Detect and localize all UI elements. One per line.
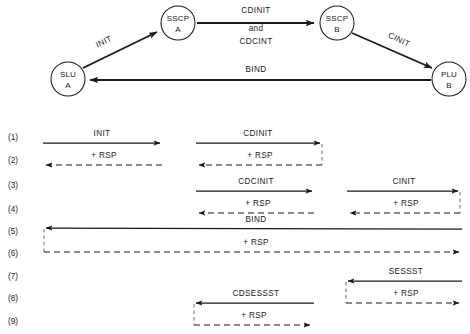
flow-cdinit: CDINIT <box>196 129 320 143</box>
flow-init-label: INIT <box>94 129 111 138</box>
topology-edge-cdcint-label: CDCINT <box>239 37 272 46</box>
node-plu-b-line2: B <box>446 81 452 90</box>
topology-edge-cinit: CINIT <box>352 31 432 68</box>
flow-cinit: CINIT <box>347 177 458 191</box>
sna-session-flow-figure: INIT CDINIT and CDCINT CINIT BIND SLU A <box>0 0 470 334</box>
topology-edge-cinit-label: CINIT <box>387 31 412 49</box>
flow-cdinit-rsp-label: + RSP <box>247 151 273 160</box>
topology-edge-init: INIT <box>83 32 157 68</box>
row-number-8: (8) <box>8 294 18 303</box>
flow-cinit-rsp-label: + RSP <box>393 199 419 208</box>
node-plu-b: PLU B <box>432 62 466 96</box>
row-number-7: (7) <box>8 272 18 281</box>
flow-sessst-rsp-label: + RSP <box>393 289 419 298</box>
topology-edge-init-label: INIT <box>94 34 113 49</box>
row-number-5: (5) <box>8 227 18 236</box>
flow-sessst-rsp: + RSP <box>346 289 459 303</box>
flow-bind-label: BIND <box>246 215 267 224</box>
flow-cdsessst: CDSESSST <box>196 289 314 303</box>
topology-edge-bind-label: BIND <box>246 65 267 74</box>
node-slu-a: SLU A <box>51 62 85 96</box>
flow-cinit-label: CINIT <box>392 177 415 186</box>
row-number-2: (2) <box>8 156 18 165</box>
flow-cdcinit-rsp: + RSP <box>199 199 314 213</box>
flow-bind-rsp-label: + RSP <box>243 238 269 247</box>
flow-cdsessst-label: CDSESSST <box>233 289 280 298</box>
node-sscp-b-line1: SSCP <box>326 14 349 23</box>
topology-edge-and-label: and <box>249 24 264 33</box>
flow-cdcinit: CDCINIT <box>196 177 312 191</box>
node-slu-a-line2: A <box>65 81 71 90</box>
node-sscp-b-line2: B <box>334 25 340 34</box>
flow-cdsessst-rsp-label: + RSP <box>241 311 267 320</box>
node-sscp-a-line1: SSCP <box>167 14 190 23</box>
sequence-row-numbers: (1) (2) (3) (4) (5) (6) (7) (8) (9) <box>8 133 18 326</box>
flow-init: INIT <box>43 129 160 143</box>
row-number-1: (1) <box>8 133 18 142</box>
flow-cdcinit-rsp-label: + RSP <box>245 199 271 208</box>
node-plu-b-line1: PLU <box>441 70 457 79</box>
row-number-4: (4) <box>8 205 18 214</box>
node-sscp-a-line2: A <box>175 25 181 34</box>
node-slu-a-line1: SLU <box>60 70 76 79</box>
topology-edge-cdinit-label: CDINIT <box>241 6 270 15</box>
flow-cdcinit-label: CDCINIT <box>238 177 274 186</box>
flow-sessst-label: SESSST <box>389 267 423 276</box>
flow-cdsessst-rsp: + RSP <box>194 311 310 325</box>
topology-diagram: INIT CDINIT and CDCINT CINIT BIND SLU A <box>51 6 466 96</box>
node-sscp-b: SSCP B <box>320 6 354 40</box>
flow-init-rsp: + RSP <box>46 151 162 165</box>
row-number-9: (9) <box>8 317 18 326</box>
topology-edge-cdinit: CDINIT and CDCINT <box>197 6 314 46</box>
row-number-3: (3) <box>8 181 18 190</box>
topology-edge-bind: BIND <box>90 65 431 80</box>
flow-init-rsp-label: + RSP <box>91 151 117 160</box>
flow-cdinit-rsp: + RSP <box>199 151 322 165</box>
flow-cdinit-label: CDINIT <box>243 129 272 138</box>
flow-cinit-rsp: + RSP <box>350 199 460 213</box>
flow-sessst: SESSST <box>348 267 462 281</box>
node-sscp-a: SSCP A <box>161 6 195 40</box>
flow-bind: BIND <box>46 215 462 229</box>
flow-bind-rsp: + RSP <box>44 238 459 252</box>
row-number-6: (6) <box>8 249 18 258</box>
